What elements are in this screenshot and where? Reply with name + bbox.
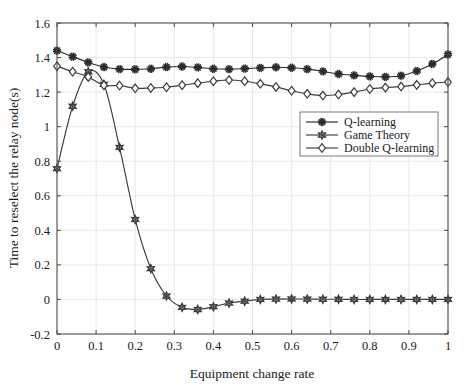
x-tick-label: 0.1 <box>88 339 104 353</box>
line-chart: 00.10.20.30.40.50.60.70.80.91 -0.200.20.… <box>0 0 471 389</box>
legend-item-label: Q-learning <box>344 115 396 129</box>
y-tick-label: 1.2 <box>34 86 50 100</box>
x-tick-label: 0.7 <box>323 339 339 353</box>
y-tick-label: 0.8 <box>34 155 50 169</box>
x-tick-label: 0.6 <box>284 339 300 353</box>
x-tick-label: 0.9 <box>401 339 417 353</box>
y-tick-label: 0 <box>44 293 50 307</box>
x-tick-label: 1 <box>445 339 451 353</box>
y-tick-label: -0.2 <box>30 328 50 342</box>
x-tick-label: 0.5 <box>245 339 261 353</box>
y-axis-title: Time to reselect the relay node(s) <box>6 88 21 269</box>
y-tick-label: 0.2 <box>34 258 50 272</box>
legend-item-label: Double Q-learning <box>344 141 434 155</box>
x-tick-label: 0.8 <box>362 339 378 353</box>
y-tick-label: 1.6 <box>34 17 50 31</box>
legend-item-label: Game Theory <box>344 128 410 142</box>
y-tick-label: 1.4 <box>34 51 50 65</box>
chart-figure: 00.10.20.30.40.50.60.70.80.91 -0.200.20.… <box>0 0 471 389</box>
x-tick-label: 0.2 <box>127 339 143 353</box>
x-tick-label: 0 <box>54 339 60 353</box>
chart-legend[interactable]: Q-learningGame TheoryDouble Q-learning <box>300 112 438 156</box>
y-tick-label: 1 <box>44 120 50 134</box>
x-tick-label: 0.4 <box>206 339 222 353</box>
y-tick-label: 0.6 <box>34 189 50 203</box>
y-tick-label: 0.4 <box>34 224 50 238</box>
legend-marker-sample <box>319 119 326 126</box>
x-tick-label: 0.3 <box>166 339 182 353</box>
x-axis-title: Equipment change rate <box>190 366 314 381</box>
